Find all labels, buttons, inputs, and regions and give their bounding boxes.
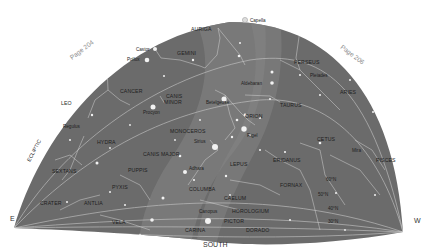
constellation-pisces: PISCES [376,157,396,163]
star-aldebaran: Aldebaran [241,81,262,86]
star-chart: Page 204 Page 206 E SOUTH W ECLIPTIC 60°… [0,0,434,252]
direction-west: W [414,217,421,224]
star-rigel: Rigel [247,133,257,138]
constellation-fornax: FORNAX [280,182,303,188]
constellation-taurus: TAURUS [280,102,302,108]
constellation-canis-minor-2: MINOR [164,99,182,105]
constellation-pyxis: PYXIS [112,184,128,190]
constellation-vela: VELA [112,219,126,225]
latitude-label: 50°N [318,192,328,197]
constellation-caelum: CAELUM [224,195,246,201]
star-pollux: Pollux [127,57,140,62]
constellation-cancer: CANCER [120,88,143,94]
constellation-carina: CARINA [185,227,206,233]
star-procyon: Procyon [143,110,160,115]
constellation-eridanus: ERIDANUS [273,157,301,163]
constellation-hydra: HYDRA [97,139,116,145]
latitude-label: 30°N [328,219,338,224]
constellation-horologium: HOROLOGIUM [232,208,269,214]
star-sirius: Sirius [194,139,206,144]
star-pleiades: Pleiades [310,73,328,78]
constellation-leo: LEO [61,100,72,106]
latitude-label: 40°N [328,206,338,211]
star-adhara: Adhara [189,166,204,171]
constellation-dorado: DORADO [246,227,269,233]
constellation-aries: ARIES [340,89,357,95]
star-castor: Castor [136,47,150,52]
constellation-lepus: LEPUS [230,161,248,167]
constellation-perseus: PERSEUS [294,59,320,65]
direction-south: SOUTH [203,241,228,248]
constellation-pictor: PICTOR [224,218,244,224]
constellation-canis-major: CANIS MAJOR [143,151,180,157]
constellation-monoceros: MONOCEROS [170,128,206,134]
star-capella: Capella [250,18,266,23]
constellation-cetus: CETUS [317,136,336,142]
constellation-sextans: SEXTANS [52,168,77,174]
ecliptic-label: ECLIPTIC [26,138,43,162]
star-regulus: Regulus [63,124,81,129]
direction-east: E [10,215,15,222]
star-betelgeuse: Betelgeuse [206,100,229,105]
star-canopus: Canopus [199,209,218,214]
star-mira: Mira [352,148,361,153]
capella-marker [242,17,247,22]
constellation-columba: COLUMBA [189,186,216,192]
latitude-label: 60°N [326,177,336,182]
constellation-orion: ORION [245,113,263,119]
constellation-gemini: GEMINI [177,50,196,56]
page-ref-right[interactable]: Page 206 [339,43,366,66]
constellation-auriga: AURIGA [191,26,212,32]
constellation-crater: CRATER [40,200,62,206]
page-ref-left[interactable]: Page 204 [68,38,95,61]
constellation-antlia: ANTLIA [84,200,103,206]
constellation-puppis: PUPPIS [128,167,148,173]
